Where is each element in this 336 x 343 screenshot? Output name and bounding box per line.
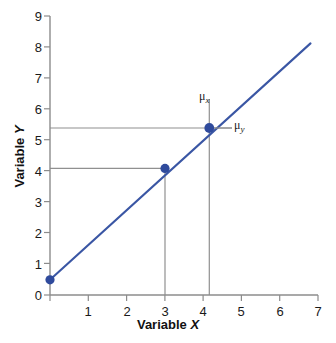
x-tick-label-1: 1: [79, 305, 97, 318]
y-tick-label-7: 7: [26, 72, 42, 85]
y-tick-label-4: 4: [26, 165, 42, 178]
data-point-mean: [204, 123, 214, 133]
x-axis-ticks: [50, 295, 318, 301]
data-point-origin: [45, 275, 54, 284]
chart-figure: 9 8 7 6 5 4 3 2 1 0 1 2 3 4 5 6 7 μx μy …: [0, 0, 336, 343]
x-tick-label-5: 5: [232, 305, 250, 318]
data-point-x3: [160, 164, 169, 173]
mu-y-subscript: y: [240, 124, 244, 134]
axis-lines: [50, 16, 318, 295]
y-tick-label-5: 5: [26, 134, 42, 147]
y-axis-title: Variable Y: [13, 102, 26, 212]
y-tick-label-2: 2: [26, 227, 42, 240]
x-tick-label-7: 7: [309, 305, 327, 318]
regression-line: [50, 43, 311, 279]
mu-x-annotation: μx: [199, 90, 209, 105]
y-axis-ticks: [44, 16, 50, 295]
y-tick-label-8: 8: [26, 41, 42, 54]
y-axis-title-text: Variable: [12, 134, 27, 187]
y-tick-label-3: 3: [26, 196, 42, 209]
y-tick-label-6: 6: [26, 103, 42, 116]
mu-x-subscript: x: [205, 95, 209, 105]
y-tick-label-9: 9: [26, 10, 42, 23]
x-axis-title-variable: X: [190, 317, 199, 332]
plot-canvas: [0, 0, 336, 343]
x-tick-label-2: 2: [118, 305, 136, 318]
x-axis-title: Variable X: [0, 318, 336, 331]
x-tick-label-6: 6: [271, 305, 289, 318]
y-axis-title-variable: Y: [12, 125, 27, 134]
mu-y-annotation: μy: [234, 119, 244, 134]
y-tick-label-0: 0: [26, 289, 42, 302]
x-axis-title-text: Variable: [137, 317, 190, 332]
y-tick-label-1: 1: [26, 258, 42, 271]
